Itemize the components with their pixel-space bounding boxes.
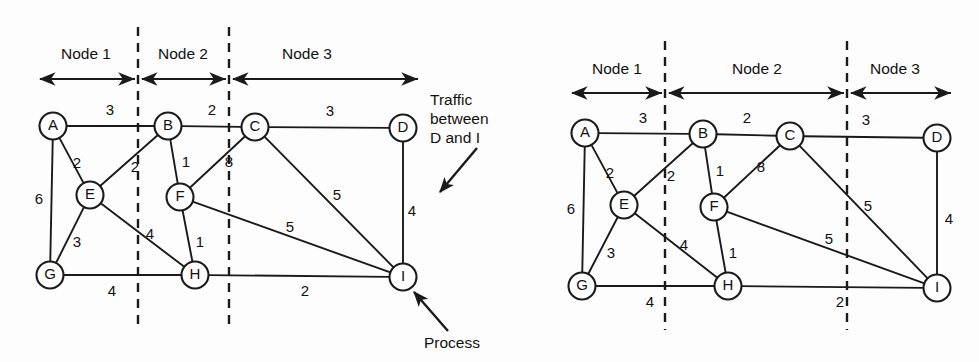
process-node-label-G: G: [44, 265, 56, 282]
edge-weight-B-F: 1: [716, 162, 724, 179]
node-group: ABCDEFGHI: [569, 120, 951, 302]
process-node-label-H: H: [190, 265, 201, 282]
process-callout-line-1: Process: [424, 334, 480, 351]
edge-weight-G-H: 4: [108, 282, 116, 299]
edge-E-H: [635, 213, 718, 277]
edge-weight-F-H: 1: [196, 233, 204, 250]
edge-F-H: [183, 210, 193, 261]
edge-weight-D-I: 4: [408, 202, 416, 219]
process-node-label-B: B: [698, 124, 708, 141]
edge-weight-D-I: 4: [945, 210, 953, 227]
panel-group: 3232623418155442Node 1Node 2Node 3ABCDEF…: [35, 27, 953, 351]
edge-weight-E-G: 3: [73, 233, 81, 250]
band-label-node-1: Node 1: [592, 60, 642, 77]
edge-weight-A-E: 2: [73, 154, 81, 171]
edge-weight-A-B: 3: [106, 101, 114, 118]
edge-F-C: [724, 145, 780, 198]
edge-B-C: [182, 126, 242, 127]
process-node-label-H: H: [723, 276, 734, 293]
process-node-label-A: A: [580, 123, 590, 140]
edge-weight-A-B: 3: [639, 109, 647, 126]
edge-A-B: [599, 133, 690, 134]
edge-weight-F-H: 1: [729, 244, 737, 261]
process-node-label-E: E: [619, 195, 629, 212]
panel-partition-b: 3232623418155442Node 1Node 2Node 3ABCDEF…: [567, 41, 953, 330]
band-label-node-2: Node 2: [158, 45, 208, 62]
edge-weight-C-D: 3: [862, 111, 870, 128]
edge-E-B: [634, 143, 693, 196]
process-node-label-C: C: [250, 117, 261, 134]
edge-weight-F-I: 5: [825, 230, 833, 247]
edge-weight-C-I: 5: [864, 197, 872, 214]
edge-weight-F-C: 8: [757, 158, 765, 175]
process-node-label-D: D: [932, 128, 943, 145]
traffic-callout-line-2: between: [430, 110, 489, 127]
process-callout-arrow: [414, 292, 448, 331]
process-node-label-G: G: [576, 276, 588, 293]
edge-weight-G-H: 4: [646, 293, 654, 310]
traffic-callout-arrow: [440, 148, 477, 192]
edge-A-G: [50, 140, 52, 262]
edge-weight-E-H: 4: [680, 236, 688, 253]
edge-C-D: [269, 127, 390, 128]
edge-weight-B-C: 2: [743, 109, 751, 126]
edge-weight-C-D: 3: [326, 102, 334, 119]
process-node-label-D: D: [398, 118, 409, 135]
edge-H-I: [742, 286, 924, 288]
band-label-node-2: Node 2: [732, 60, 782, 77]
edge-C-D: [804, 136, 924, 138]
edge-weight-E-G: 3: [607, 244, 615, 261]
band-label-node-3: Node 3: [282, 45, 332, 62]
edge-weight-B-F: 1: [182, 153, 190, 170]
process-node-label-I: I: [401, 267, 405, 284]
edge-H-I: [209, 275, 390, 277]
band-label-node-3: Node 3: [870, 60, 920, 77]
traffic-callout-line-1: Traffic: [430, 91, 472, 108]
band-label-node-1: Node 1: [61, 45, 111, 62]
edge-weight-F-I: 5: [286, 218, 294, 235]
edge-B-F: [705, 147, 712, 193]
edge-C-I: [264, 137, 393, 268]
node-group: ABCDEFGHI: [37, 113, 417, 291]
edge-weight-E-B: 2: [667, 167, 675, 184]
edge-weight-C-I: 5: [333, 186, 341, 203]
process-node-label-F: F: [709, 197, 718, 214]
edge-weight-B-C: 2: [208, 101, 216, 118]
panel-partition-a: 3232623418155442Node 1Node 2Node 3ABCDEF…: [35, 27, 489, 351]
graph-diagram: 3232623418155442Node 1Node 2Node 3ABCDEF…: [0, 0, 979, 362]
edge-weight-H-I: 2: [301, 282, 309, 299]
edge-F-I: [193, 202, 391, 273]
edge-E-B: [100, 135, 158, 186]
edge-E-H: [101, 203, 185, 267]
edge-F-H: [716, 220, 725, 272]
edge-weight-A-E: 2: [606, 164, 614, 181]
edge-B-F: [170, 139, 178, 183]
edge-weight-E-H: 4: [146, 225, 154, 242]
edge-A-G: [582, 147, 584, 273]
edge-weight-A-G: 6: [567, 200, 575, 217]
edge-F-I: [727, 212, 925, 284]
figure-canvas: 3232623418155442Node 1Node 2Node 3ABCDEF…: [0, 0, 979, 362]
edge-weight-H-I: 2: [836, 293, 844, 310]
process-node-label-A: A: [48, 116, 58, 133]
process-node-label-E: E: [85, 185, 95, 202]
edge-B-C: [717, 134, 777, 135]
process-node-label-C: C: [785, 126, 796, 143]
process-node-label-F: F: [175, 187, 184, 204]
process-node-label-B: B: [163, 116, 173, 133]
traffic-callout-line-3: D and I: [430, 129, 480, 146]
edge-F-C: [190, 136, 245, 188]
edge-weight-A-G: 6: [35, 190, 43, 207]
process-node-label-I: I: [935, 278, 939, 295]
